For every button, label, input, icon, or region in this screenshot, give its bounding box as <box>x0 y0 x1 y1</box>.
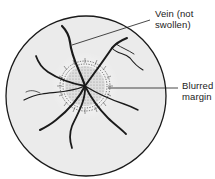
vein-label-line-1: Vein (not <box>155 8 193 19</box>
margin-label-line-1: Blurred <box>182 80 213 91</box>
margin-label-line-2: margin <box>182 91 213 102</box>
vein-label: Vein (not swollen) <box>155 8 193 30</box>
margin-label: Blurred margin <box>182 80 213 102</box>
vein-label-line-2: swollen) <box>155 19 193 30</box>
